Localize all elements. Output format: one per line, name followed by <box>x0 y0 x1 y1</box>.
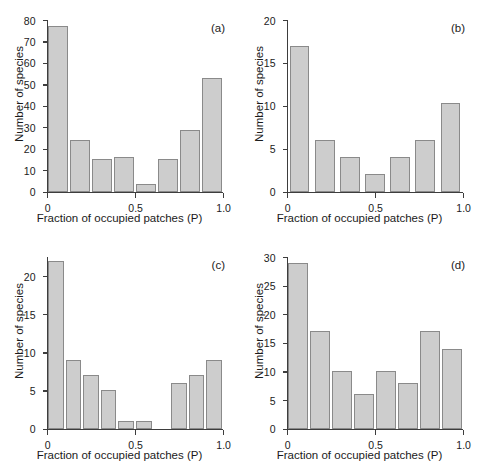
x-tick-label-a-2: 1.0 <box>216 202 231 214</box>
y-tick-label-a-6: 60 <box>24 57 36 69</box>
histogram-bar <box>441 103 461 191</box>
histogram-bar <box>70 140 89 191</box>
y-tick-label-a-8: 80 <box>24 15 36 27</box>
y-tick-label-b-4: 20 <box>264 15 276 27</box>
figure-histogram-grid: Number of species Fraction of occupied p… <box>0 0 479 474</box>
histogram-bar <box>442 349 461 429</box>
x-tick-label-c-2: 1.0 <box>216 439 231 451</box>
x-tick-label-d-2: 1.0 <box>456 439 471 451</box>
y-tick-label-a-0: 0 <box>30 186 36 198</box>
x-tick-b-1: 0.5 <box>375 193 376 198</box>
histogram-bar <box>340 157 360 191</box>
histogram-bar <box>180 130 199 191</box>
x-tick-label-d-1: 0.5 <box>368 439 383 451</box>
y-tick-b-2: 10 <box>283 106 288 107</box>
x-axis-label-b: Fraction of occupied patches (P) <box>240 212 479 224</box>
y-tick-label-c-2: 10 <box>24 347 36 359</box>
x-tick-label-a-1: 0.5 <box>128 202 143 214</box>
y-tick-d-6: 30 <box>283 257 288 258</box>
y-tick-label-b-1: 5 <box>270 143 276 155</box>
y-tick-a-3: 30 <box>43 127 48 128</box>
x-axis-label-d: Fraction of occupied patches (P) <box>240 449 479 461</box>
y-tick-a-8: 80 <box>43 20 48 21</box>
x-tick-label-b-2: 1.0 <box>456 202 471 214</box>
y-tick-label-b-3: 15 <box>264 57 276 69</box>
y-tick-label-c-3: 15 <box>24 309 36 321</box>
x-tick-d-0: 0 <box>287 430 288 435</box>
x-tick-label-b-1: 0.5 <box>368 202 383 214</box>
histogram-bar <box>365 174 385 191</box>
y-tick-label-d-1: 5 <box>270 395 276 407</box>
y-tick-label-a-7: 70 <box>24 36 36 48</box>
y-tick-d-4: 20 <box>283 314 288 315</box>
histogram-bar <box>310 331 329 428</box>
histogram-bar <box>66 360 81 429</box>
y-tick-d-5: 25 <box>283 286 288 287</box>
y-axis-label-b: Number of species <box>253 29 265 159</box>
y-tick-label-d-3: 15 <box>264 337 276 349</box>
histogram-bar <box>136 184 155 192</box>
x-tick-b-2: 1.0 <box>463 193 464 198</box>
y-tick-b-3: 15 <box>283 63 288 64</box>
histogram-bar <box>390 157 410 191</box>
y-tick-a-2: 20 <box>43 149 48 150</box>
chart-panel-d: Number of species Fraction of occupied p… <box>240 237 479 474</box>
y-tick-label-b-0: 0 <box>270 186 276 198</box>
y-tick-label-c-1: 5 <box>30 385 36 397</box>
y-tick-label-b-2: 10 <box>264 100 276 112</box>
chart-panel-b: Number of species Fraction of occupied p… <box>240 0 479 237</box>
x-axis-label-a: Fraction of occupied patches (P) <box>0 212 239 224</box>
x-tick-a-1: 0.5 <box>135 193 136 198</box>
y-tick-a-6: 60 <box>43 63 48 64</box>
x-tick-d-1: 0.5 <box>375 430 376 435</box>
y-tick-c-4: 20 <box>43 276 48 277</box>
x-tick-c-2: 1.0 <box>223 430 224 435</box>
histogram-bar <box>171 383 186 429</box>
y-tick-label-c-4: 20 <box>24 271 36 283</box>
plot-area-a: 0102030405060708000.51.0 <box>47 20 223 193</box>
y-tick-label-d-6: 30 <box>264 252 276 264</box>
histogram-bar <box>158 159 177 191</box>
x-tick-label-c-0: 0 <box>45 439 51 451</box>
y-tick-label-a-2: 20 <box>24 143 36 155</box>
histogram-bar <box>114 157 133 191</box>
histogram-bar <box>398 383 417 429</box>
x-tick-d-2: 1.0 <box>463 430 464 435</box>
plot-area-c: 0510152000.51.0 <box>47 257 223 430</box>
histogram-bar <box>315 140 335 191</box>
y-tick-c-3: 15 <box>43 314 48 315</box>
x-tick-a-2: 1.0 <box>223 193 224 198</box>
histogram-bar <box>48 261 63 429</box>
y-tick-c-2: 10 <box>43 352 48 353</box>
y-tick-label-d-4: 20 <box>264 309 276 321</box>
y-tick-a-1: 10 <box>43 170 48 171</box>
x-tick-c-1: 0.5 <box>135 430 136 435</box>
histogram-bar <box>206 360 221 429</box>
plot-area-d: 05101520253000.51.0 <box>287 257 463 430</box>
histogram-bar <box>288 263 307 429</box>
histogram-bar <box>92 159 111 191</box>
x-tick-label-a-0: 0 <box>45 202 51 214</box>
chart-panel-c: Number of species Fraction of occupied p… <box>0 237 239 474</box>
y-tick-label-a-4: 40 <box>24 100 36 112</box>
y-tick-label-d-0: 0 <box>270 423 276 435</box>
y-axis-label-a: Number of species <box>13 29 25 159</box>
y-tick-label-a-5: 50 <box>24 79 36 91</box>
y-tick-a-5: 50 <box>43 84 48 85</box>
y-tick-d-3: 15 <box>283 343 288 344</box>
y-tick-label-c-0: 0 <box>30 423 36 435</box>
y-tick-label-a-3: 30 <box>24 122 36 134</box>
x-tick-label-c-1: 0.5 <box>128 439 143 451</box>
y-tick-d-1: 5 <box>283 400 288 401</box>
histogram-bar <box>48 26 67 191</box>
histogram-bar <box>189 375 204 428</box>
y-tick-b-4: 20 <box>283 20 288 21</box>
y-tick-c-1: 5 <box>43 390 48 391</box>
y-tick-b-1: 5 <box>283 149 288 150</box>
x-tick-label-b-0: 0 <box>285 202 291 214</box>
histogram-bar <box>415 140 435 191</box>
y-tick-label-d-5: 25 <box>264 280 276 292</box>
histogram-bar <box>354 394 373 428</box>
histogram-bar <box>420 331 439 428</box>
histogram-bar <box>202 78 221 192</box>
